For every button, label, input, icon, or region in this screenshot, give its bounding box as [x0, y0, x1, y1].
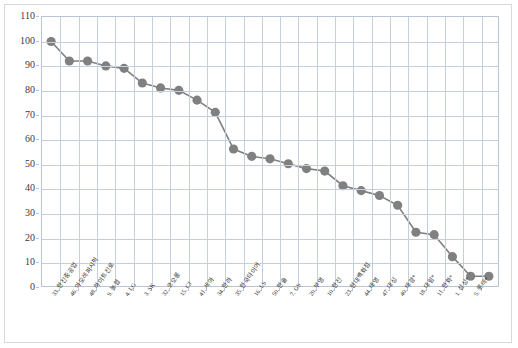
- gridline-vertical: [372, 17, 373, 286]
- y-tick-label: 90: [25, 60, 35, 70]
- y-axis: 1101009080706050403020100: [5, 16, 39, 287]
- gridline-vertical: [298, 17, 299, 286]
- y-tick-label: 80: [25, 85, 35, 95]
- y-tick-label: 60: [25, 134, 35, 144]
- y-tick-mark: [36, 90, 39, 91]
- gridline-horizontal: [42, 42, 498, 43]
- data-point-marker[interactable]: [265, 154, 274, 163]
- y-tick-mark: [36, 41, 39, 42]
- gridline-horizontal: [42, 91, 498, 92]
- data-point-marker[interactable]: [65, 56, 74, 65]
- gridline-vertical: [60, 17, 61, 286]
- y-tick-mark: [36, 139, 39, 140]
- data-point-marker[interactable]: [284, 159, 293, 168]
- data-point-marker[interactable]: [192, 96, 201, 105]
- gridline-vertical: [170, 17, 171, 286]
- chart-frame: 1101009080706050403020100 33. 한진중공업46. 아…: [4, 4, 512, 343]
- y-tick-label: 50: [25, 159, 35, 169]
- data-point-marker[interactable]: [411, 228, 420, 237]
- y-tick-mark: [36, 164, 39, 165]
- series-line-chart: [42, 17, 498, 286]
- gridline-vertical: [115, 17, 116, 286]
- gridline-horizontal: [42, 239, 498, 240]
- y-tick-label: 70: [25, 110, 35, 120]
- y-tick-mark: [36, 115, 39, 116]
- data-point-marker[interactable]: [320, 166, 329, 175]
- gridline-vertical: [244, 17, 245, 286]
- gridline-vertical: [207, 17, 208, 286]
- data-point-marker[interactable]: [247, 152, 256, 161]
- gridline-vertical: [280, 17, 281, 286]
- gridline-vertical: [97, 17, 98, 286]
- gridline-vertical: [262, 17, 263, 286]
- gridline-vertical: [79, 17, 80, 286]
- data-point-marker[interactable]: [448, 252, 457, 261]
- y-tick-label: 30: [25, 208, 35, 218]
- gridline-vertical: [427, 17, 428, 286]
- y-tick-mark: [36, 213, 39, 214]
- gridline-horizontal: [42, 66, 498, 67]
- y-tick-label: 100: [20, 36, 35, 46]
- gridline-vertical: [189, 17, 190, 286]
- data-point-marker[interactable]: [138, 78, 147, 87]
- y-tick-label: 110: [20, 11, 35, 21]
- y-tick-label: 40: [25, 183, 35, 193]
- gridline-vertical: [390, 17, 391, 286]
- data-point-marker[interactable]: [393, 201, 402, 210]
- data-point-marker[interactable]: [120, 64, 129, 73]
- y-tick-label: 0: [30, 282, 35, 292]
- data-point-marker[interactable]: [229, 144, 238, 153]
- y-tick-label: 20: [25, 233, 35, 243]
- y-tick-mark: [36, 262, 39, 263]
- y-tick-mark: [36, 188, 39, 189]
- x-axis: 33. 한진중공업46. 아모레퍼시픽48. 하이트진로9. 농협4. LG3.…: [41, 288, 499, 344]
- gridline-vertical: [482, 17, 483, 286]
- gridline-horizontal: [42, 140, 498, 141]
- gridline-vertical: [134, 17, 135, 286]
- data-point-marker[interactable]: [375, 191, 384, 200]
- gridline-vertical: [408, 17, 409, 286]
- y-tick-mark: [36, 238, 39, 239]
- gridline-horizontal: [42, 214, 498, 215]
- data-point-marker[interactable]: [357, 186, 366, 195]
- y-tick-label: 10: [25, 257, 35, 267]
- gridline-vertical: [353, 17, 354, 286]
- gridline-vertical: [317, 17, 318, 286]
- gridline-vertical: [463, 17, 464, 286]
- plot-wrapper: 1101009080706050403020100 33. 한진중공업46. 아…: [5, 5, 513, 344]
- gridline-vertical: [152, 17, 153, 286]
- gridline-horizontal: [42, 116, 498, 117]
- y-tick-mark: [36, 287, 39, 288]
- gridline-vertical: [445, 17, 446, 286]
- gridline-horizontal: [42, 165, 498, 166]
- y-tick-mark: [36, 65, 39, 66]
- gridline-vertical: [225, 17, 226, 286]
- data-point-marker[interactable]: [83, 56, 92, 65]
- gridline-horizontal: [42, 189, 498, 190]
- gridline-vertical: [335, 17, 336, 286]
- y-tick-mark: [36, 16, 39, 17]
- plot-area: [41, 16, 499, 287]
